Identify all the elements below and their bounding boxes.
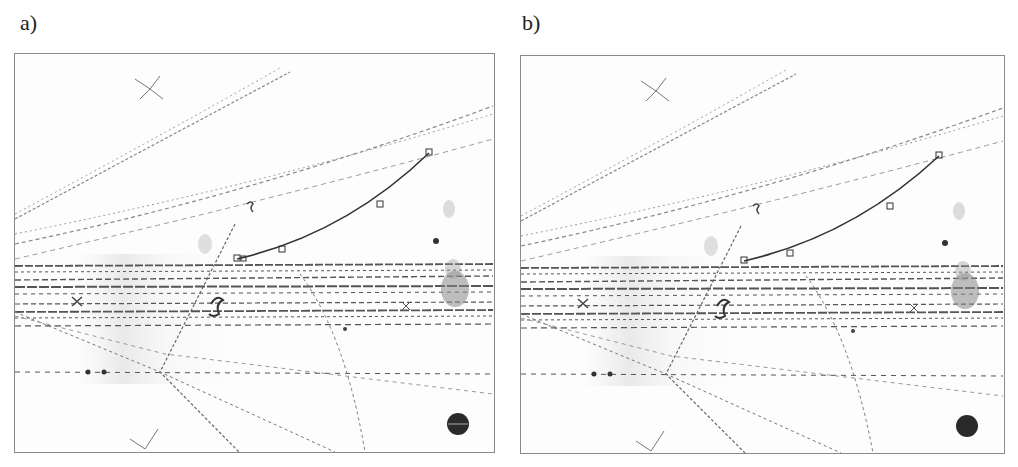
panel-label-a: a): [20, 10, 37, 36]
fitted-track-curve-a: [237, 153, 429, 259]
bubble-chamber-image-a: [14, 53, 495, 453]
track-overlay-b: [521, 56, 1004, 453]
panel-label-b: b): [522, 10, 540, 36]
track-overlay-a: [15, 54, 494, 452]
bubble-chamber-image-b: [520, 55, 1005, 454]
fitted-track-curve-b: [744, 156, 939, 261]
